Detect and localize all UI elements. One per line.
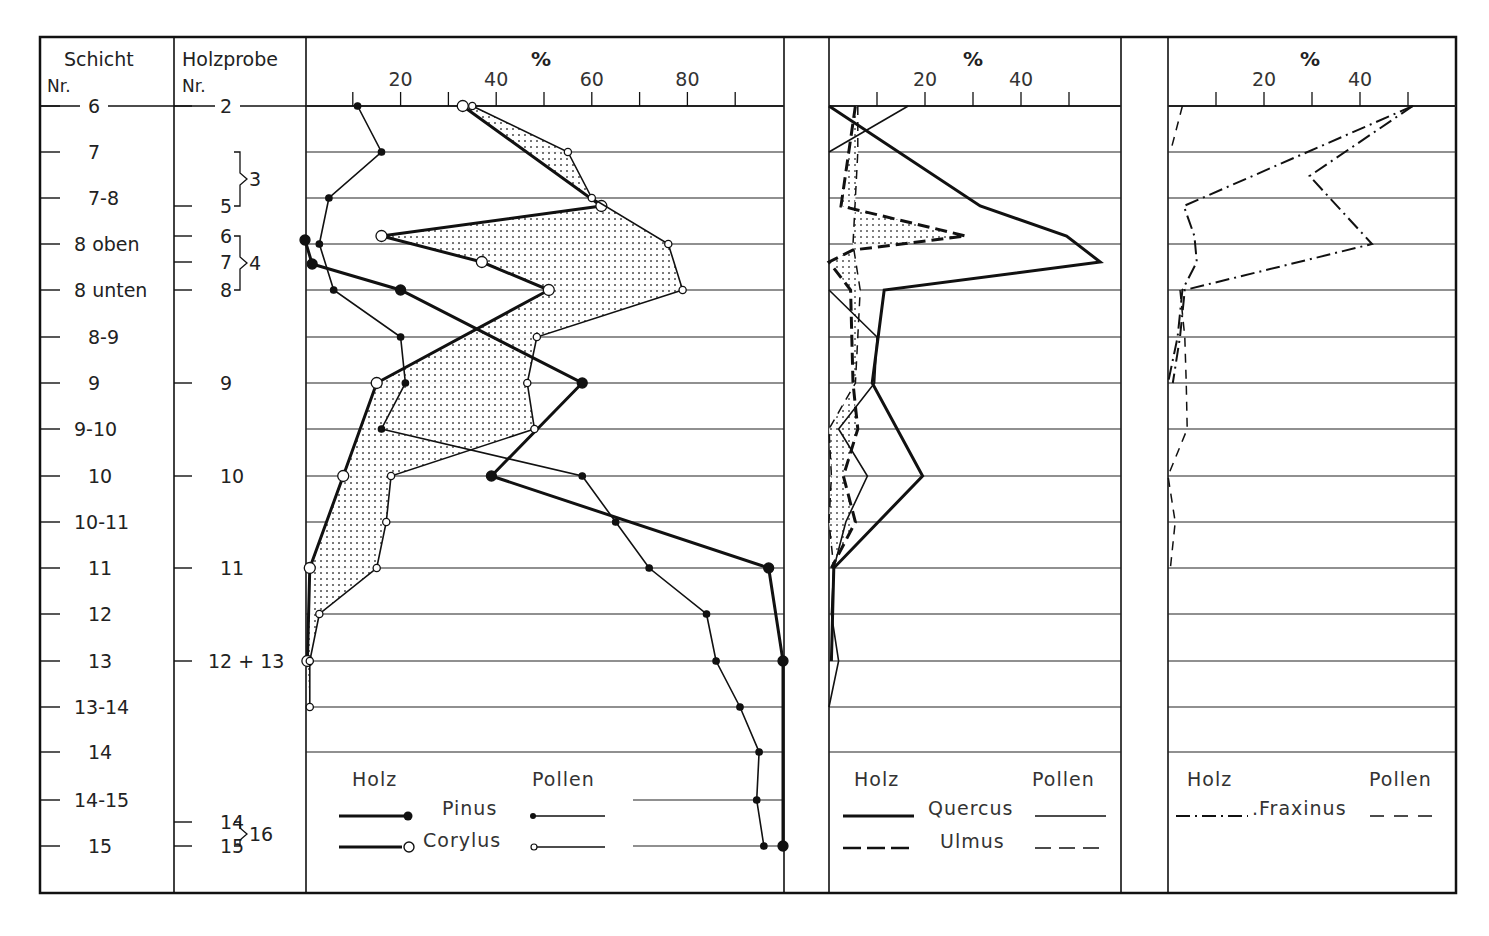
- data-marker: [469, 102, 476, 109]
- holzprobe-label: 2: [220, 95, 232, 117]
- group-label: 4: [249, 252, 261, 274]
- axis-tick-label: 20: [913, 68, 937, 90]
- holzprobe-header: Holzprobe: [182, 48, 278, 70]
- schicht-label: 8 unten: [74, 279, 147, 301]
- axis-tick-label: 40: [484, 68, 508, 90]
- data-marker: [665, 240, 672, 247]
- legend-taxon: Pinus: [442, 797, 497, 819]
- legend-pollen: Pollen: [1369, 768, 1432, 790]
- data-marker: [577, 378, 587, 388]
- outer-frame: [40, 37, 1456, 893]
- schicht-label: 7-8: [88, 187, 119, 209]
- data-marker: [588, 194, 595, 201]
- data-marker: [486, 471, 496, 481]
- schicht-label: 9-10: [74, 418, 117, 440]
- data-marker: [376, 231, 387, 242]
- schicht-label: 6: [88, 95, 100, 117]
- schicht-label: 8 oben: [74, 233, 140, 255]
- group-label: 3: [249, 168, 261, 190]
- data-marker: [304, 563, 315, 574]
- schicht-label: 14: [88, 741, 112, 763]
- data-marker: [756, 749, 762, 755]
- data-marker: [764, 563, 774, 573]
- schicht-label: 10-11: [74, 511, 129, 533]
- legend-marker: [404, 842, 414, 852]
- data-marker: [387, 472, 394, 479]
- axis-tick-label: 40: [1009, 68, 1033, 90]
- schicht-label: 15: [88, 835, 112, 857]
- holzprobe-label: 7: [220, 251, 232, 273]
- data-marker: [338, 471, 349, 482]
- data-marker: [754, 797, 760, 803]
- data-marker: [579, 473, 585, 479]
- holzprobe-label: 11: [220, 557, 244, 579]
- holzprobe-label: 9: [220, 372, 232, 394]
- schicht-sub: Nr.: [47, 76, 71, 96]
- axis-unit-label: %: [963, 47, 983, 71]
- data-marker: [330, 287, 336, 293]
- legend-taxon: Corylus: [423, 829, 501, 851]
- data-marker: [613, 519, 619, 525]
- schicht-label: 7: [88, 141, 100, 163]
- legend-taxon: Quercus: [928, 797, 1013, 819]
- legend-holz: Holz: [352, 768, 397, 790]
- group-label: 16: [249, 823, 273, 845]
- data-marker: [679, 286, 686, 293]
- legend-taxon: .Fraxinus: [1252, 797, 1347, 819]
- data-marker: [378, 149, 384, 155]
- data-marker: [316, 610, 323, 617]
- data-marker: [564, 148, 571, 155]
- data-marker: [761, 843, 767, 849]
- data-marker: [354, 103, 360, 109]
- axis-tick-label: 20: [389, 68, 413, 90]
- data-marker: [371, 378, 382, 389]
- legend-marker: [404, 812, 413, 821]
- schicht-label: 10: [88, 465, 112, 487]
- data-marker: [646, 565, 652, 571]
- data-marker: [737, 704, 743, 710]
- holzprobe-label: 5: [220, 195, 232, 217]
- series-line: [1170, 106, 1182, 152]
- data-marker: [306, 657, 313, 664]
- data-marker: [306, 703, 313, 710]
- data-marker: [457, 101, 468, 112]
- holzprobe-label: 10: [220, 465, 244, 487]
- legend-pollen: Pollen: [1032, 768, 1095, 790]
- schicht-label: 9: [88, 372, 100, 394]
- axis-tick-label: 20: [1252, 68, 1276, 90]
- corylus-shading: [307, 106, 682, 707]
- data-marker: [543, 285, 554, 296]
- axis-unit-label: %: [1300, 47, 1320, 71]
- data-marker: [533, 333, 540, 340]
- holzprobe-sub: Nr.: [182, 76, 206, 96]
- schicht-label: 11: [88, 557, 112, 579]
- plot-layers: 677-88 oben8 unten8-999-101010-111112131…: [40, 47, 1456, 857]
- legend-marker: [531, 844, 537, 850]
- data-marker: [402, 380, 408, 386]
- legend-taxon: Ulmus: [940, 830, 1005, 852]
- schicht-label: 12: [88, 603, 112, 625]
- data-marker: [383, 518, 390, 525]
- data-marker: [397, 334, 403, 340]
- data-marker: [476, 257, 487, 268]
- data-marker: [396, 285, 406, 295]
- group-bracket: [234, 152, 247, 206]
- data-marker: [703, 611, 709, 617]
- pollen-wood-diagram: Schicht Nr. Holzprobe Nr. 677-88 oben8 u…: [0, 0, 1489, 936]
- data-marker: [531, 425, 538, 432]
- holzprobe-label: 12 + 13: [208, 650, 284, 672]
- data-marker: [300, 235, 310, 245]
- data-marker: [307, 259, 317, 269]
- data-marker: [713, 658, 719, 664]
- axis-tick-label: 60: [580, 68, 604, 90]
- data-marker: [326, 195, 332, 201]
- legend-holz: Holz: [854, 768, 899, 790]
- legend-holz: Holz: [1187, 768, 1232, 790]
- holzprobe-label: 6: [220, 225, 232, 247]
- data-marker: [378, 426, 384, 432]
- schicht-label: 8-9: [88, 326, 119, 348]
- data-marker: [373, 564, 380, 571]
- data-marker: [778, 656, 788, 666]
- axis-unit-label: %: [531, 47, 551, 71]
- schicht-label: 13: [88, 650, 112, 672]
